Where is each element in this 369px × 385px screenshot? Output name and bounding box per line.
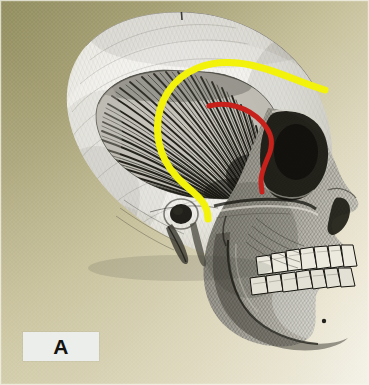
skull-illustration [0,0,369,385]
panel-label-text: A [53,336,69,357]
panel-label-box: A [23,332,99,361]
figure-panel-a: A [0,0,369,385]
